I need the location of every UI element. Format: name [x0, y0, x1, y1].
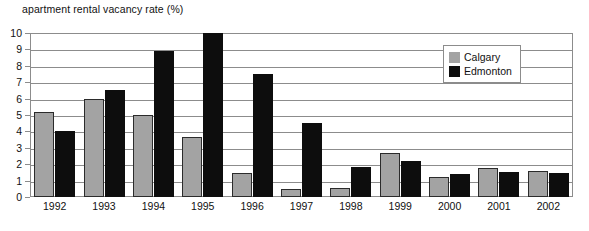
x-tick-label-1992: 1992 — [43, 200, 66, 212]
x-tick-label-1996: 1996 — [240, 200, 263, 212]
y-tick-label: 8 — [16, 60, 22, 72]
bar-group — [326, 33, 375, 197]
legend-item-calgary: Calgary — [449, 50, 515, 64]
bar-edmonton-2002 — [549, 173, 569, 197]
bar-calgary-1995 — [182, 137, 202, 197]
bar-calgary-1994 — [133, 115, 153, 197]
y-tick-label: 5 — [16, 109, 22, 121]
legend-label-calgary: Calgary — [464, 51, 500, 63]
bar-group — [277, 33, 326, 197]
x-tick-label-1998: 1998 — [339, 200, 362, 212]
bar-edmonton-2001 — [499, 172, 519, 197]
bar-edmonton-1997 — [302, 123, 322, 197]
chart-legend: Calgary Edmonton — [443, 45, 521, 83]
bar-edmonton-1998 — [351, 167, 371, 197]
x-tick-label-1995: 1995 — [191, 200, 214, 212]
bar-group — [227, 33, 276, 197]
bar-group — [178, 33, 227, 197]
bar-edmonton-1993 — [105, 90, 125, 197]
bar-group — [376, 33, 425, 197]
bar-edmonton-1995 — [203, 33, 223, 197]
y-tick-label: 10 — [10, 27, 22, 39]
y-tick-label: 1 — [16, 175, 22, 187]
y-tick-label: 2 — [16, 158, 22, 170]
bar-edmonton-1994 — [154, 51, 174, 197]
x-tick-label-2001: 2001 — [487, 200, 510, 212]
y-tick-label: 6 — [16, 93, 22, 105]
x-tick-label-1999: 1999 — [389, 200, 412, 212]
y-tick-label: 0 — [16, 191, 22, 203]
y-tick-label: 3 — [16, 142, 22, 154]
bar-group — [129, 33, 178, 197]
vacancy-rate-bar-chart: apartment rental vacancy rate (%) 012345… — [0, 0, 589, 231]
x-tick-label-1997: 1997 — [290, 200, 313, 212]
bar-calgary-2001 — [478, 168, 498, 197]
bar-group — [524, 33, 573, 197]
x-tick-label-2002: 2002 — [537, 200, 560, 212]
legend-item-edmonton: Edmonton — [449, 64, 515, 78]
bar-calgary-1998 — [330, 188, 350, 197]
bar-calgary-1996 — [232, 173, 252, 197]
x-tick-label-1994: 1994 — [142, 200, 165, 212]
y-tick-label: 4 — [16, 125, 22, 137]
x-tick-label-2000: 2000 — [438, 200, 461, 212]
bar-calgary-1997 — [281, 189, 301, 197]
legend-label-edmonton: Edmonton — [464, 65, 512, 77]
bar-calgary-1993 — [84, 99, 104, 197]
bar-group — [30, 33, 79, 197]
y-axis: 012345678910 — [0, 33, 30, 197]
legend-swatch-calgary-icon — [449, 52, 460, 63]
legend-swatch-edmonton-icon — [449, 66, 460, 77]
x-axis: 1992199319941995199619971998199920002001… — [30, 200, 573, 220]
bar-calgary-2000 — [429, 177, 449, 197]
bar-calgary-2002 — [528, 171, 548, 197]
bar-edmonton-1996 — [253, 74, 273, 197]
bar-group — [79, 33, 128, 197]
y-tick-label: 9 — [16, 43, 22, 55]
bar-calgary-1992 — [34, 112, 54, 197]
bar-edmonton-1999 — [401, 161, 421, 197]
chart-title: apartment rental vacancy rate (%) — [22, 3, 183, 15]
y-tick-mark — [25, 197, 30, 198]
y-tick-label: 7 — [16, 76, 22, 88]
bar-calgary-1999 — [380, 153, 400, 197]
x-tick-label-1993: 1993 — [92, 200, 115, 212]
bar-edmonton-2000 — [450, 174, 470, 197]
bar-edmonton-1992 — [55, 131, 75, 197]
